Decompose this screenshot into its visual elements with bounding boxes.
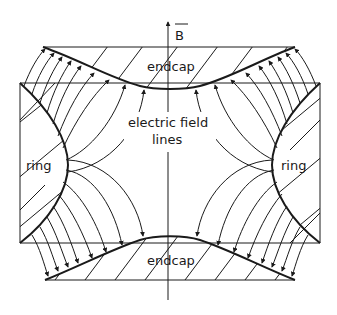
bottom-endcap-label: endcap (147, 253, 195, 268)
field-lines-lower-left (32, 160, 143, 276)
top-endcap-label: endcap (147, 59, 195, 74)
field-lines-upper-right (196, 49, 316, 172)
field-lines-label-line2: lines (152, 132, 182, 147)
field-lines-lower-right (197, 160, 308, 276)
b-field-symbol: B (175, 28, 184, 43)
right-ring-label: ring (281, 158, 306, 173)
field-lines-label-line1: electric field (128, 115, 208, 130)
field-lines-upper-left (24, 49, 144, 172)
penning-trap-diagram: B endcap (0, 0, 337, 315)
field-lines-label: electric field lines (124, 112, 216, 152)
magnetic-field-label: B (175, 24, 188, 43)
outer-hatching (20, 83, 320, 243)
right-ring-electrode: ring (270, 83, 330, 250)
trap-outline (20, 47, 320, 280)
left-ring-label: ring (26, 158, 51, 173)
